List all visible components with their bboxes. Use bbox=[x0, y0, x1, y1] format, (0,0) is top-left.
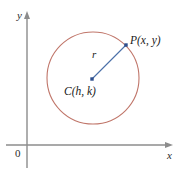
radius-segment bbox=[92, 45, 126, 79]
circle-diagram: y x 0 P(x, y) C(h, k) r bbox=[0, 0, 185, 175]
origin-label: 0 bbox=[15, 148, 21, 159]
point-p-label: P(x, y) bbox=[130, 35, 161, 47]
point-p-marker bbox=[124, 43, 127, 46]
x-axis-arrowhead bbox=[165, 142, 173, 148]
center-point-marker bbox=[90, 77, 93, 80]
x-axis-label: x bbox=[167, 150, 172, 161]
center-label: C(h, k) bbox=[64, 86, 96, 98]
radius-label: r bbox=[92, 49, 96, 60]
y-axis-label: y bbox=[17, 10, 22, 21]
y-axis-arrowhead bbox=[24, 11, 30, 19]
